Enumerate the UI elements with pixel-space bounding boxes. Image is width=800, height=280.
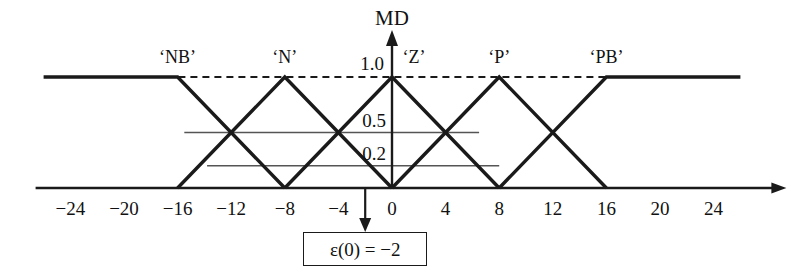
x-tick-label-0: 0 [387, 199, 397, 218]
y-tick-label-0-2: 0.2 [362, 143, 386, 162]
x-tick-label-neg16: −16 [163, 199, 193, 218]
fuzzy-membership-figure: MD 1.0 0.5 0.2 −24 −20 −16 −12 −8 −4 0 4… [0, 0, 800, 280]
membership-curve-pb [499, 77, 740, 188]
set-label-n: ‘N’ [272, 48, 297, 66]
x-axis-arrowhead [771, 183, 786, 194]
set-label-nb: ‘NB’ [159, 48, 196, 66]
x-tick-label-20: 20 [651, 199, 670, 218]
x-tick-label-neg24: −24 [56, 199, 86, 218]
y-tick-label-0-5: 0.5 [362, 110, 386, 129]
x-tick-label-neg4: −4 [328, 199, 348, 218]
y-axis-title: MD [375, 8, 409, 29]
set-label-p: ‘P’ [488, 48, 510, 66]
x-tick-label-neg20: −20 [109, 199, 139, 218]
x-tick-label-24: 24 [704, 199, 723, 218]
error-annotation-box: ε(0) = −2 [303, 232, 427, 266]
x-tick-label-16: 16 [597, 199, 616, 218]
annotation-pointer-arrowhead [359, 218, 371, 232]
error-annotation-text: ε(0) = −2 [330, 240, 401, 259]
y-axis-arrowhead [386, 30, 398, 46]
x-tick-label-12: 12 [543, 199, 562, 218]
y-tick-label-1-0: 1.0 [360, 54, 384, 73]
x-tick-label-neg8: −8 [275, 199, 295, 218]
x-tick-label-4: 4 [441, 199, 451, 218]
set-label-z: ‘Z’ [403, 48, 426, 66]
x-tick-label-8: 8 [494, 199, 504, 218]
x-tick-label-neg12: −12 [216, 199, 246, 218]
set-label-pb: ‘PB’ [589, 48, 623, 66]
